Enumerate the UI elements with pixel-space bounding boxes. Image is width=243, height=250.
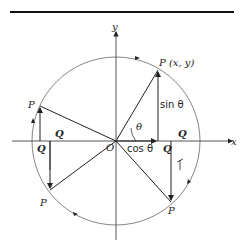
point-label-q3: P xyxy=(39,197,47,208)
point-label-q4: P xyxy=(167,205,175,216)
origin-label: O xyxy=(106,142,114,153)
cos-label: cos θ xyxy=(127,143,153,154)
q-label-4: Q xyxy=(178,128,187,139)
tick-mark-q4 xyxy=(177,159,183,170)
point-main-label: P (x, y) xyxy=(158,57,194,68)
x-label: x xyxy=(231,136,237,147)
angle-label: θ xyxy=(136,121,142,132)
unit-circle-diagram: y x O P (x, y) sin θ cos θ θ P P P Q Q Q… xyxy=(0,0,243,250)
radius-q2 xyxy=(40,106,116,141)
q-label-2: Q xyxy=(37,143,46,154)
q-label-1: Q xyxy=(55,128,64,139)
sin-label: sin θ xyxy=(160,99,184,110)
y-label: y xyxy=(111,21,118,32)
point-label-q2: P xyxy=(27,99,35,110)
q-label-3: Q xyxy=(163,143,172,154)
